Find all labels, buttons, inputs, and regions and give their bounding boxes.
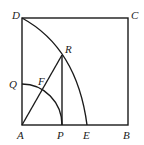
label-b: B: [123, 129, 130, 141]
label-a: A: [16, 129, 24, 141]
label-p: P: [56, 129, 64, 141]
square-abcd: [22, 18, 128, 125]
label-e: E: [82, 129, 90, 141]
label-c: C: [131, 9, 139, 21]
segment-ar: [22, 55, 62, 125]
label-d: D: [11, 9, 20, 21]
geometry-diagram: D C A P E B R Q F: [0, 0, 144, 145]
label-r: R: [64, 43, 72, 55]
label-f: F: [37, 75, 45, 87]
label-q: Q: [9, 78, 17, 90]
